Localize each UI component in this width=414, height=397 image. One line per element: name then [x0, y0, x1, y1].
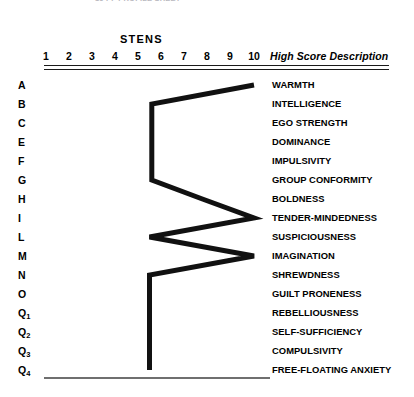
- description-q3: COMPULSIVITY: [272, 344, 414, 358]
- description-q1: REBELLIOUSNESS: [272, 306, 414, 320]
- factor-letter-h: H: [18, 192, 44, 206]
- factor-letter-q1: Q1: [18, 306, 44, 320]
- bottom-rule: [44, 377, 270, 379]
- factor-letter-q2: Q2: [18, 325, 44, 339]
- profile-polyline: [150, 85, 255, 370]
- description-q4: FREE-FLOATING ANXIETY: [272, 363, 414, 377]
- sten-tick-2: 2: [57, 50, 81, 62]
- factor-letter-c: C: [18, 116, 44, 130]
- factor-letter-b: B: [18, 97, 44, 111]
- factor-subscript: 2: [26, 331, 30, 340]
- description-m: IMAGINATION: [272, 249, 414, 263]
- factor-subscript: 4: [26, 369, 30, 378]
- sten-tick-8: 8: [195, 50, 219, 62]
- sten-tick-6: 6: [149, 50, 173, 62]
- factor-letter-o: O: [18, 287, 44, 301]
- description-a: WARMTH: [272, 78, 414, 92]
- sten-tick-4: 4: [103, 50, 127, 62]
- description-column: WARMTHINTELLIGENCEEGO STRENGTHDOMINANCEI…: [272, 0, 414, 397]
- sten-tick-10: 10: [242, 50, 266, 62]
- factor-subscript: 1: [26, 312, 30, 321]
- factor-letter-i: I: [18, 211, 44, 225]
- description-b: INTELLIGENCE: [272, 97, 414, 111]
- description-l: SUSPICIOUSNESS: [272, 230, 414, 244]
- description-o: GUILT PRONENESS: [272, 287, 414, 301]
- factor-letter-column: ABCEFGHILMNOQ1Q2Q3Q4: [0, 0, 44, 397]
- description-i: TENDER-MINDEDNESS: [272, 211, 414, 225]
- description-q2: SELF-SUFFICIENCY: [272, 325, 414, 339]
- factor-letter-m: M: [18, 249, 44, 263]
- stens-axis-label: STENS: [120, 33, 163, 45]
- factor-letter-l: L: [18, 230, 44, 244]
- factor-letter-f: F: [18, 154, 44, 168]
- description-f: IMPULSIVITY: [272, 154, 414, 168]
- sten-tick-9: 9: [218, 50, 242, 62]
- factor-letter-g: G: [18, 173, 44, 187]
- description-e: DOMINANCE: [272, 135, 414, 149]
- factor-letter-n: N: [18, 268, 44, 282]
- factor-letter-e: E: [18, 135, 44, 149]
- description-g: GROUP CONFORMITY: [272, 173, 414, 187]
- factor-letter-q3: Q3: [18, 344, 44, 358]
- factor-letter-q4: Q4: [18, 363, 44, 377]
- profile-chart: 16 PF PROFILE SHEET FACTOR STENS 1234567…: [0, 0, 414, 397]
- factor-letter-a: A: [18, 78, 44, 92]
- description-h: BOLDNESS: [272, 192, 414, 206]
- description-n: SHREWDNESS: [272, 268, 414, 282]
- sten-tick-5: 5: [126, 50, 150, 62]
- sten-tick-3: 3: [80, 50, 104, 62]
- sten-tick-7: 7: [172, 50, 196, 62]
- description-c: EGO STRENGTH: [272, 116, 414, 130]
- factor-subscript: 3: [26, 350, 30, 359]
